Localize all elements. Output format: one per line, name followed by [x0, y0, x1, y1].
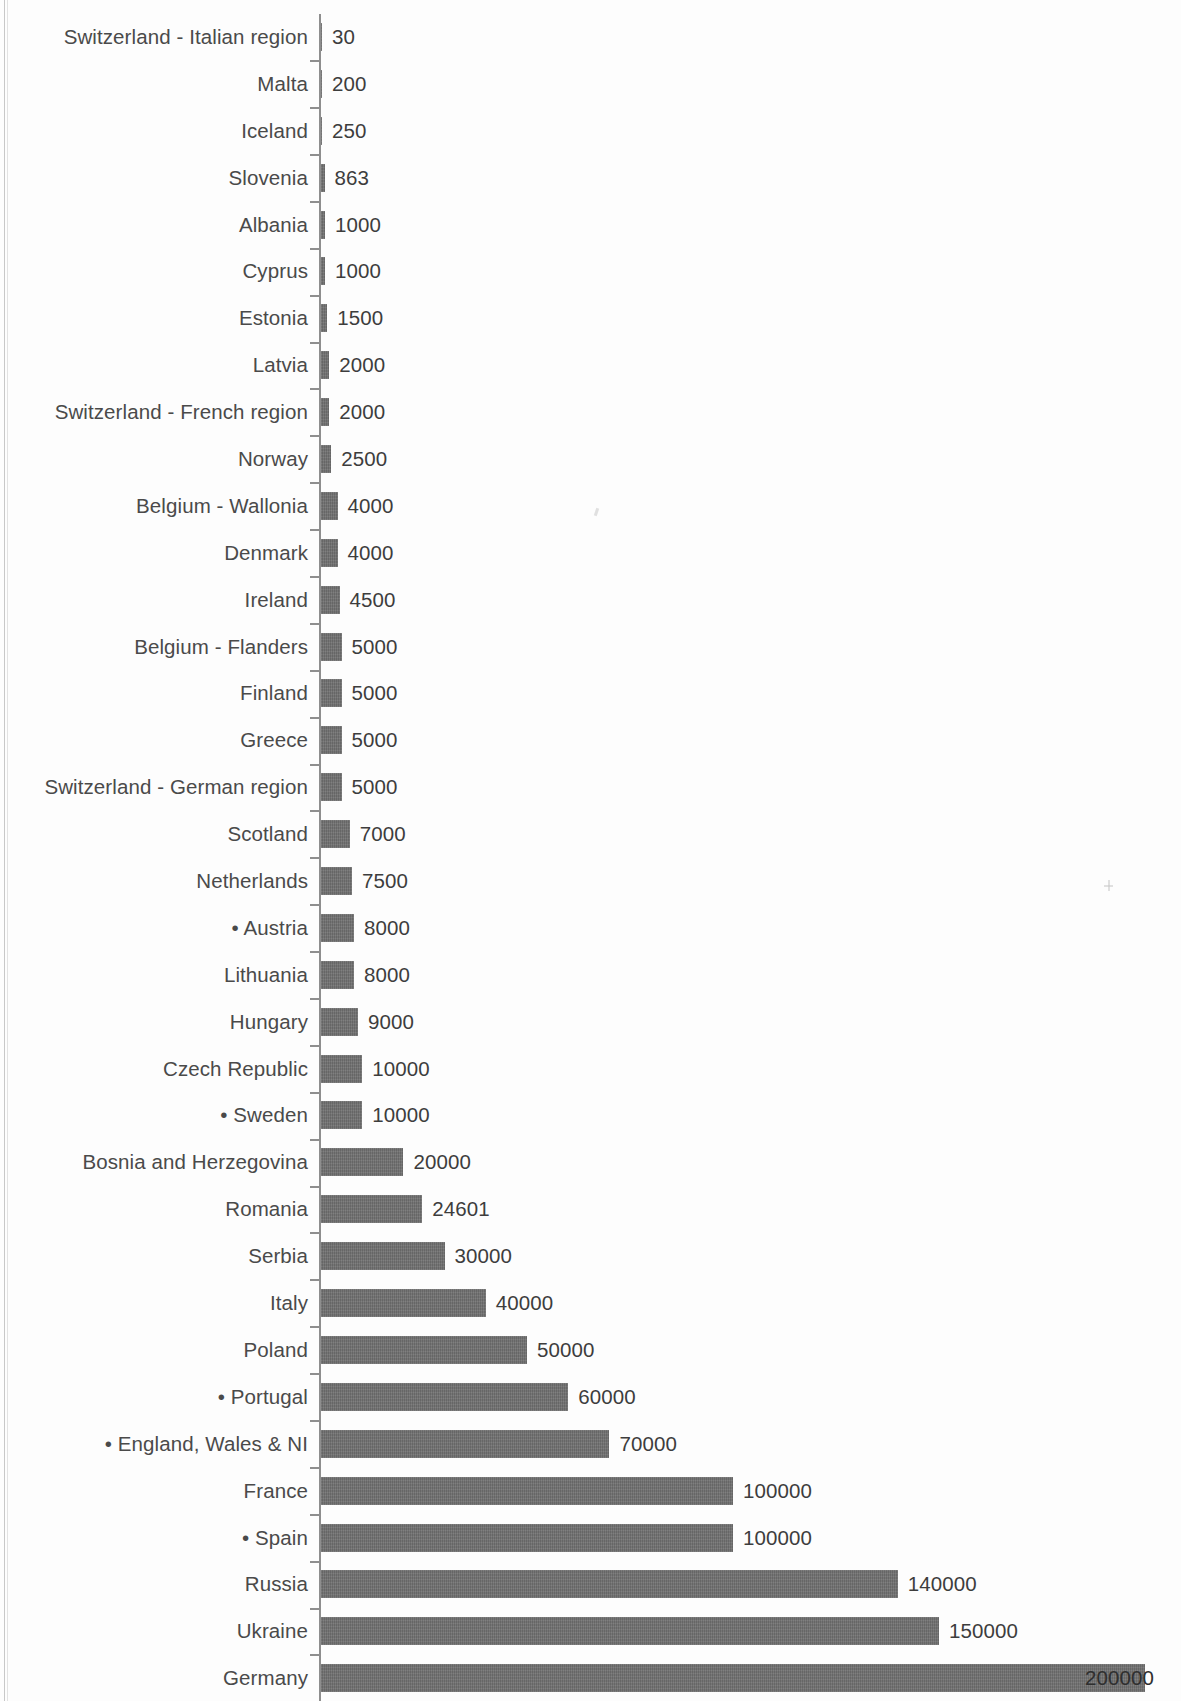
category-label: Estonia — [239, 295, 308, 342]
category-label: Poland — [244, 1327, 308, 1374]
bar — [321, 1477, 733, 1505]
bar-value-label: 4500 — [350, 577, 396, 624]
category-label: Romania — [225, 1186, 308, 1233]
bar-row: Czech Republic10000 — [0, 1046, 1181, 1093]
category-label: Czech Republic — [163, 1046, 308, 1093]
category-label: Switzerland - Italian region — [64, 14, 308, 61]
bar — [321, 1055, 362, 1083]
bar-value-label: 30000 — [455, 1233, 513, 1280]
bar-value-label: 50000 — [537, 1327, 595, 1374]
bar-value-label: 150000 — [949, 1608, 1018, 1655]
category-label: • Austria — [232, 905, 308, 952]
bar-row: Germany200000 — [0, 1655, 1181, 1701]
bar-row: Russia140000 — [0, 1561, 1181, 1608]
bar-value-label: 2000 — [339, 389, 385, 436]
bar-row: Netherlands7500 — [0, 858, 1181, 905]
bar — [321, 164, 325, 192]
bar-row: Slovenia863 — [0, 155, 1181, 202]
bar-row: Switzerland - German region5000 — [0, 764, 1181, 811]
bar-value-label: 8000 — [364, 905, 410, 952]
category-label: Italy — [270, 1280, 308, 1327]
bar-value-label: 863 — [335, 155, 370, 202]
category-label: Serbia — [248, 1233, 308, 1280]
bar-row: Belgium - Flanders5000 — [0, 624, 1181, 671]
category-label: Switzerland - French region — [55, 389, 308, 436]
bar-value-label: 250 — [332, 108, 367, 155]
bar-row: Ukraine150000 — [0, 1608, 1181, 1655]
category-label: • England, Wales & NI — [105, 1421, 308, 1468]
category-label: Germany — [223, 1655, 308, 1701]
bar-rows-container: Switzerland - Italian region30Malta200Ic… — [0, 14, 1181, 1701]
bar — [321, 1008, 358, 1036]
bar-value-label: 10000 — [372, 1092, 430, 1139]
bar-row: France100000 — [0, 1468, 1181, 1515]
bar-row: Cyprus1000 — [0, 248, 1181, 295]
bar-value-label: 1000 — [335, 248, 381, 295]
bar-value-label: 140000 — [908, 1561, 977, 1608]
bar — [321, 773, 342, 801]
bar — [321, 961, 354, 989]
category-label: Norway — [238, 436, 308, 483]
category-label: Finland — [240, 670, 308, 717]
bar-value-label: 200 — [332, 61, 367, 108]
bar — [321, 1289, 486, 1317]
bar-value-label: 5000 — [352, 624, 398, 671]
category-label: Switzerland - German region — [44, 764, 308, 811]
bar-value-label: 60000 — [578, 1374, 636, 1421]
category-label: Latvia — [253, 342, 308, 389]
bar-row: Italy40000 — [0, 1280, 1181, 1327]
bar-value-label: 8000 — [364, 952, 410, 999]
bar-row: Iceland250 — [0, 108, 1181, 155]
bar — [321, 211, 325, 239]
bar — [321, 1383, 568, 1411]
bar — [321, 726, 342, 754]
bar — [321, 867, 352, 895]
horizontal-bar-chart: Switzerland - Italian region30Malta200Ic… — [0, 0, 1181, 1701]
bar-row: Finland5000 — [0, 670, 1181, 717]
category-label: Bosnia and Herzegovina — [82, 1139, 308, 1186]
chart-page: Switzerland - Italian region30Malta200Ic… — [0, 0, 1181, 1701]
bar-value-label: 1500 — [337, 295, 383, 342]
bar — [321, 398, 329, 426]
bar-value-label: 5000 — [352, 717, 398, 764]
bar-row: Bosnia and Herzegovina20000 — [0, 1139, 1181, 1186]
bar — [321, 633, 342, 661]
category-label: Slovenia — [229, 155, 308, 202]
bar — [321, 445, 331, 473]
bar — [321, 1524, 733, 1552]
category-label: Netherlands — [196, 858, 308, 905]
bar-row: Greece5000 — [0, 717, 1181, 764]
bar-row: Norway2500 — [0, 436, 1181, 483]
bar-row: Belgium - Wallonia4000 — [0, 483, 1181, 530]
bar-row: Poland50000 — [0, 1327, 1181, 1374]
bar-row: Lithuania8000 — [0, 952, 1181, 999]
bar — [321, 1664, 1145, 1692]
bar — [321, 679, 342, 707]
bar-row: Malta200 — [0, 61, 1181, 108]
bar-row: • Portugal60000 — [0, 1374, 1181, 1421]
bar-value-label: 7000 — [360, 811, 406, 858]
bar — [321, 914, 354, 942]
category-label: Scotland — [227, 811, 308, 858]
bar-value-label: 4000 — [347, 530, 393, 577]
bar-value-label: 24601 — [432, 1186, 490, 1233]
bar-value-label: 2000 — [339, 342, 385, 389]
bar-row: Switzerland - French region2000 — [0, 389, 1181, 436]
bar-value-label: 5000 — [352, 670, 398, 717]
bar-row: Denmark4000 — [0, 530, 1181, 577]
bar — [321, 1195, 422, 1223]
category-label: Lithuania — [224, 952, 308, 999]
bar-value-label: 100000 — [743, 1468, 812, 1515]
category-label: Hungary — [230, 999, 308, 1046]
category-label: France — [244, 1468, 308, 1515]
bar-value-label: 1000 — [335, 202, 381, 249]
category-label: Greece — [240, 717, 308, 764]
bar-row: Scotland7000 — [0, 811, 1181, 858]
bar — [321, 70, 322, 98]
bar — [321, 539, 338, 567]
category-label: Belgium - Wallonia — [136, 483, 308, 530]
bar-value-label: 200000 — [1085, 1655, 1154, 1701]
bar-row: • Sweden10000 — [0, 1092, 1181, 1139]
bar-value-label: 9000 — [368, 999, 414, 1046]
bar-value-label: 20000 — [413, 1139, 471, 1186]
